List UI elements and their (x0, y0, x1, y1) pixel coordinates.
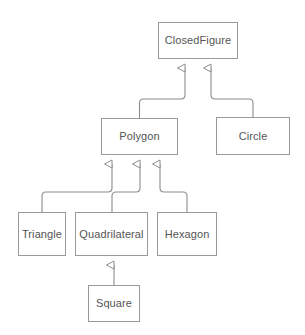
edge-quadrilateral-to-polygon (112, 164, 140, 212)
class-name-closedfigure: ClosedFigure (165, 34, 232, 47)
class-name-circle: Circle (239, 130, 268, 143)
class-name-hexagon: Hexagon (165, 228, 210, 241)
class-name-polygon: Polygon (119, 130, 159, 143)
edge-circle-to-closedfigure (211, 68, 253, 117)
uml-class-diagram: ClosedFigure Polygon Circle Triangle Qua… (0, 0, 305, 335)
class-name-square: Square (96, 297, 132, 310)
edge-hexagon-to-polygon (160, 164, 187, 212)
class-box-square[interactable]: Square (88, 285, 140, 322)
class-box-circle[interactable]: Circle (216, 117, 290, 155)
edge-polygon-to-closedfigure (140, 68, 186, 118)
edges-layer (0, 0, 305, 335)
class-box-hexagon[interactable]: Hexagon (157, 212, 217, 256)
class-box-triangle[interactable]: Triangle (18, 212, 66, 256)
class-box-polygon[interactable]: Polygon (101, 118, 178, 155)
class-name-quadrilateral: Quadrilateral (79, 228, 143, 241)
class-name-triangle: Triangle (22, 228, 62, 241)
class-box-closedfigure[interactable]: ClosedFigure (158, 22, 238, 59)
class-box-quadrilateral[interactable]: Quadrilateral (75, 212, 148, 256)
edge-triangle-to-polygon (42, 164, 112, 212)
